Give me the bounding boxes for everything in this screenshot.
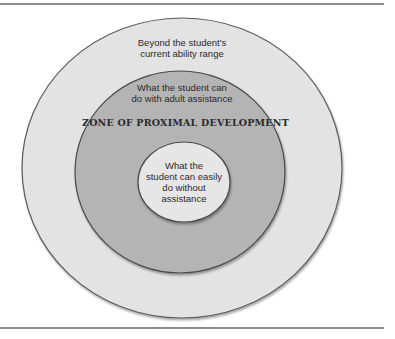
bottom-divider-rule (0, 327, 384, 329)
middle-circle-label: What the student can do with adult assis… (112, 82, 252, 104)
inner-label-line-4: assistance (139, 193, 229, 204)
inner-circle-label: What the student can easily do without a… (139, 160, 229, 204)
middle-label-line-2: do with adult assistance (112, 93, 252, 104)
zone-title: ZONE OF PROXIMAL DEVELOPMENT (82, 117, 282, 128)
inner-label-line-2: student can easily (139, 171, 229, 182)
outer-circle-label: Beyond the student's current ability ran… (122, 37, 242, 59)
outer-label-line-1: Beyond the student's (122, 37, 242, 48)
outer-label-line-2: current ability range (122, 48, 242, 59)
inner-label-line-1: What the (139, 160, 229, 171)
inner-label-line-3: do without (139, 182, 229, 193)
middle-label-line-1: What the student can (112, 82, 252, 93)
